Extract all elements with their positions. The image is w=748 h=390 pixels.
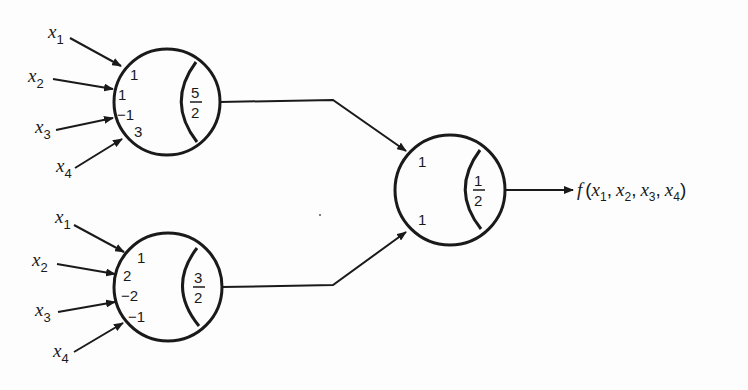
n2-input-x3-arrow [58, 302, 115, 312]
n1-input-x2-label: x2 [27, 65, 44, 91]
neuron-1: x1 x2 x3 x4 1 1 −1 3 5 2 [27, 21, 220, 181]
n2-input-x1-arrow [74, 225, 124, 252]
neuron-3-body [395, 135, 505, 245]
n1-weight-1: 1 [130, 66, 138, 83]
n2-input-x2-arrow [57, 264, 115, 274]
n2-input-x1-label: x1 [54, 206, 71, 232]
n2-weight-4: −1 [128, 308, 145, 325]
n2-input-x4-label: x4 [52, 340, 69, 366]
n1-input-x3-label: x3 [34, 116, 51, 142]
n1-input-x1-label: x1 [47, 21, 64, 47]
n1-threshold-numerator: 5 [191, 84, 199, 101]
n2-weight-2: 2 [123, 267, 131, 284]
output-function-label: f(x1,x2,x3,x4) [577, 179, 686, 204]
n3-weight-2: 1 [418, 211, 426, 228]
n2-to-n3-connection [222, 232, 406, 287]
n2-input-x4-arrow [74, 323, 123, 352]
n1-weight-2: 1 [118, 86, 126, 103]
n2-threshold-numerator: 3 [194, 269, 202, 286]
n2-input-x2-label: x2 [31, 249, 48, 275]
n2-input-x3-label: x3 [34, 299, 51, 325]
n3-threshold-denominator: 2 [474, 192, 482, 209]
threshold-network-diagram: x1 x2 x3 x4 1 1 −1 3 5 2 x1 x2 x3 x4 1 2… [0, 0, 748, 390]
n2-weight-1: 1 [137, 249, 145, 266]
n3-threshold-numerator: 1 [474, 172, 482, 189]
n1-input-x4-label: x4 [55, 155, 72, 181]
neuron-3: 1 1 1 2 [395, 135, 505, 245]
n2-threshold-denominator: 2 [194, 289, 202, 306]
stray-dot [319, 214, 321, 216]
neuron-1-body [114, 49, 220, 155]
n1-input-x4-arrow [75, 139, 122, 168]
neuron-2: x1 x2 x3 x4 1 2 −2 −1 3 2 [31, 206, 222, 366]
n1-weight-3: −1 [117, 106, 134, 123]
n1-to-n3-connection [220, 100, 406, 151]
n1-input-x1-arrow [70, 38, 121, 66]
n3-weight-1: 1 [418, 153, 426, 170]
n1-input-x2-arrow [53, 79, 113, 89]
n1-threshold-denominator: 2 [191, 104, 199, 121]
n1-weight-4: 3 [134, 123, 142, 140]
n2-weight-3: −2 [121, 287, 138, 304]
n1-input-x3-arrow [56, 118, 113, 130]
